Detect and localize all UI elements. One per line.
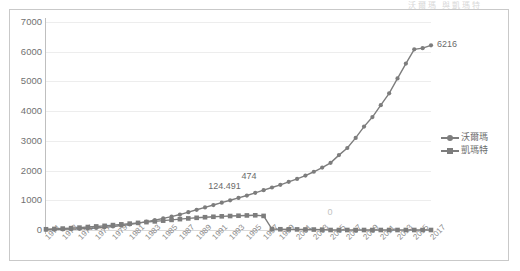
series-marker — [370, 115, 374, 119]
y-axis-tick-label: 6000 — [0, 47, 42, 57]
series-marker — [303, 174, 307, 178]
legend-item-label: 沃爾瑪 — [461, 131, 488, 144]
series-marker — [345, 228, 350, 233]
series-marker — [404, 62, 408, 66]
series-marker — [94, 224, 99, 229]
series-marker — [412, 228, 417, 233]
series-marker — [395, 228, 400, 233]
series-marker — [295, 227, 300, 232]
y-axis-tick-label: 0 — [0, 225, 42, 235]
series-marker — [320, 166, 324, 170]
series-marker — [236, 213, 241, 218]
series-marker — [219, 214, 224, 219]
series-marker — [44, 227, 49, 232]
legend-circle-marker-icon — [441, 133, 459, 142]
series-marker — [69, 226, 74, 231]
legend-square-marker-icon — [441, 146, 459, 155]
series-marker — [320, 227, 325, 232]
data-label: 6216 — [437, 40, 457, 49]
series-marker — [362, 124, 366, 128]
series-marker — [111, 223, 116, 228]
series-marker — [261, 214, 266, 219]
series-marker — [429, 43, 433, 47]
series-marker — [253, 213, 258, 218]
series-marker — [86, 225, 91, 230]
legend-item[interactable]: 沃爾瑪 — [441, 131, 488, 144]
y-axis-tick-label: 4000 — [0, 106, 42, 116]
series-marker — [387, 228, 392, 233]
series-marker — [195, 208, 199, 212]
series-marker — [153, 219, 158, 224]
series-marker — [278, 183, 282, 187]
series-marker — [395, 76, 399, 80]
series-marker — [77, 225, 82, 230]
y-axis-tick-label: 2000 — [0, 166, 42, 176]
series-marker — [119, 222, 124, 227]
series-marker — [286, 227, 291, 232]
chart-legend: 沃爾瑪凱瑪特 — [441, 131, 488, 157]
series-marker — [211, 203, 215, 207]
series-marker — [178, 212, 182, 216]
y-axis-tick-label: 1000 — [0, 196, 42, 206]
series-marker — [211, 214, 216, 219]
series-line — [46, 45, 431, 229]
series-marker — [295, 177, 299, 181]
series-marker — [186, 210, 190, 214]
series-marker — [203, 205, 207, 209]
series-marker — [245, 193, 249, 197]
y-axis-tick-label: 5000 — [0, 77, 42, 87]
plot-area: 01000200030004000500060007000 1971197319… — [46, 22, 431, 230]
cutoff-header-text: 沃爾瑪 與凱瑪特 — [408, 0, 512, 9]
series-marker — [262, 188, 266, 192]
series-marker — [228, 214, 233, 219]
data-label: 0 — [328, 208, 333, 217]
series-marker — [253, 191, 257, 195]
series-marker — [312, 227, 317, 232]
y-axis-tick-label: 7000 — [0, 17, 42, 27]
series-marker — [144, 220, 149, 225]
series-marker — [228, 198, 232, 202]
series-marker — [303, 227, 308, 232]
series-marker — [203, 215, 208, 220]
series-marker — [194, 216, 199, 221]
series-marker — [102, 224, 107, 229]
legend-item[interactable]: 凱瑪特 — [441, 144, 488, 157]
data-label: 124.491 — [208, 182, 241, 191]
series-marker — [52, 227, 57, 232]
chart-page: 沃爾瑪 與凱瑪特 01000200030004000500060007000 1… — [0, 0, 520, 271]
series-marker — [387, 91, 391, 95]
series-marker — [421, 46, 425, 50]
series-marker — [270, 185, 274, 189]
series-marker — [379, 103, 383, 107]
series-marker — [136, 221, 141, 226]
series-marker — [60, 226, 65, 231]
series-marker — [337, 153, 341, 157]
series-marker — [287, 180, 291, 184]
series-marker — [220, 201, 224, 205]
series-lines — [46, 22, 451, 234]
series-marker — [404, 228, 409, 233]
y-axis-tick-label: 3000 — [0, 136, 42, 146]
series-marker — [178, 217, 183, 222]
series-marker — [429, 228, 434, 233]
series-marker — [312, 170, 316, 174]
series-marker — [328, 228, 333, 233]
series-marker — [169, 218, 174, 223]
series-marker — [278, 227, 283, 232]
series-marker — [420, 228, 425, 233]
series-marker — [161, 218, 166, 223]
series-marker — [370, 228, 375, 233]
series-marker — [328, 161, 332, 165]
series-marker — [186, 216, 191, 221]
series-marker — [412, 47, 416, 51]
legend-item-label: 凱瑪特 — [461, 144, 488, 157]
series-marker — [127, 221, 132, 226]
series-marker — [236, 196, 240, 200]
series-marker — [353, 228, 358, 233]
data-label: 474 — [242, 172, 257, 181]
series-marker — [337, 228, 342, 233]
series-marker — [362, 228, 367, 233]
series-marker — [354, 136, 358, 140]
series-marker — [245, 213, 250, 218]
series-marker — [270, 227, 275, 232]
